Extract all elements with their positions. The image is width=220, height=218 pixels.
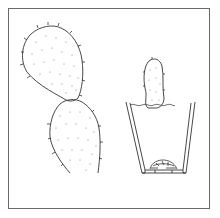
cactus-illustration — [0, 0, 220, 218]
areole-dots — [31, 35, 160, 170]
cactus-pad-upper — [22, 26, 82, 101]
drainage-shards — [150, 160, 177, 169]
pot-outer — [126, 102, 195, 173]
soil-line — [130, 104, 175, 106]
cutting-pad — [144, 59, 164, 108]
spines — [20, 22, 165, 166]
cactus-pad-lower — [50, 100, 100, 173]
